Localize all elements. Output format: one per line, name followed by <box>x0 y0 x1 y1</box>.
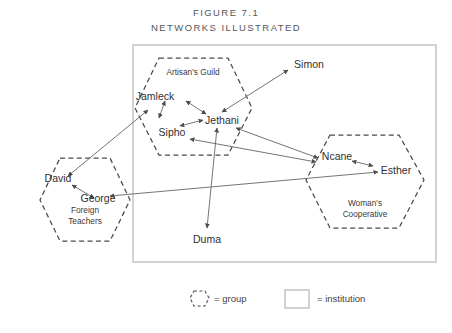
institution-icon <box>285 290 309 308</box>
legend-group-label: = group <box>214 293 247 304</box>
network-diagram: Artisan's Guild Foreign Teachers Woman's… <box>0 0 452 333</box>
node-jethani[interactable]: Jethani <box>205 114 239 126</box>
node-jamleck[interactable]: Jamleck <box>136 90 175 102</box>
edge-jamleck-jethani <box>186 101 206 114</box>
node-sipho[interactable]: Sipho <box>159 126 186 138</box>
institution-boundary <box>133 45 436 262</box>
edge-david-jamleck <box>68 110 148 176</box>
node-ncane[interactable]: Ncane <box>322 150 353 162</box>
group-label-foreign-teachers-line2: Teachers <box>68 216 102 226</box>
edge-jethani-simon <box>222 70 288 112</box>
edge-jamleck-sipho <box>159 101 165 118</box>
node-esther[interactable]: Esther <box>381 164 412 176</box>
group-icon <box>190 291 209 306</box>
legend-institution-label: = institution <box>317 293 365 304</box>
node-david[interactable]: David <box>45 172 72 184</box>
edge-george-esther <box>110 172 378 196</box>
node-duma[interactable]: Duma <box>193 233 221 245</box>
edge-ncane-esther <box>352 161 373 166</box>
figure-container: Figure 7.1 Networks Illustrated Artisan'… <box>0 0 452 333</box>
node-simon[interactable]: Simon <box>294 58 324 70</box>
group-label-artisans-guild: Artisan's Guild <box>166 67 220 77</box>
node-george[interactable]: George <box>80 192 115 204</box>
group-label-womans-cooperative-line1: Woman's <box>348 198 382 208</box>
edge-jethani-ncane <box>236 128 318 158</box>
group-label-womans-cooperative-line2: Cooperative <box>343 209 388 219</box>
group-label-foreign-teachers-line1: Foreign <box>71 205 100 215</box>
